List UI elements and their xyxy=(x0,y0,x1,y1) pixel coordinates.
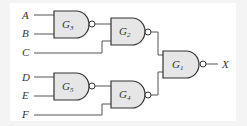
nand-gate-g1: G1 xyxy=(163,51,206,78)
input-label-c: C xyxy=(22,46,30,58)
nand-gate-g2: G2 xyxy=(111,18,151,45)
output-label-x: X xyxy=(221,58,230,70)
input-label-b: B xyxy=(22,27,29,39)
logic-circuit-diagram: A B C D E F X G3 G2 G5 xyxy=(0,0,247,126)
nand-gate-g4: G4 xyxy=(111,81,151,108)
nand-gate-g3: G3 xyxy=(54,11,95,38)
input-label-a: A xyxy=(21,9,29,21)
nand-gate-g5: G5 xyxy=(54,73,95,100)
input-label-e: E xyxy=(21,89,29,101)
input-label-d: D xyxy=(21,71,30,83)
input-label-f: F xyxy=(21,108,29,120)
